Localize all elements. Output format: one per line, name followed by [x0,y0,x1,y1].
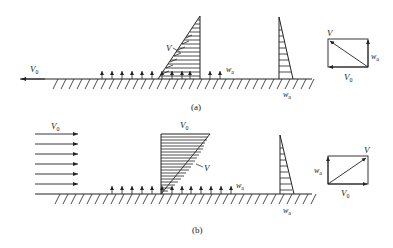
vector-vertical-label-a: wa [371,52,379,62]
caption-a: (a) [191,102,201,112]
panel-b: V0 V0 V wa wa (b) V wa V0 [35,120,371,235]
suction-profile-a [279,17,293,79]
vector-horizontal-label-b: V0 [341,188,350,199]
freestream-arrows-b [35,134,78,184]
vector-resultant-label-b: V [364,145,371,155]
freestream-label-a: V0 [30,64,39,75]
wall-hatch-a [53,79,314,89]
vector-diagram-a [328,39,368,67]
velocity-profile-b [161,134,210,194]
vector-diagram-b [328,156,368,184]
suction-label-a: wa [226,65,234,75]
velocity-leader-b [196,164,203,167]
vector-resultant-label-a: V [327,28,334,38]
velocity-profile-a [158,16,200,79]
vector-horizontal-label-a: V0 [344,72,353,83]
wall-hatch-b [55,194,316,204]
caption-b: (b) [192,225,203,235]
suction-label-b: wa [236,181,244,191]
velocity-profile-label-b: V [204,163,211,173]
suction-arrows-b [112,186,231,194]
velocity-profile-label-a: V [166,43,173,53]
velocity-suction-diagram: V0 V wa wa (a) V wa V0 [0,0,393,248]
suction-profile-label-a: wa [283,90,291,100]
freestream-label-b: V0 [51,121,60,132]
vector-vertical-label-b: wa [314,166,322,176]
suction-profile-b [280,135,294,194]
panel-a: V0 V wa wa (a) V wa V0 [20,16,379,112]
suction-profile-label-b: wa [283,206,291,216]
profile-top-label-b: V0 [180,120,189,131]
